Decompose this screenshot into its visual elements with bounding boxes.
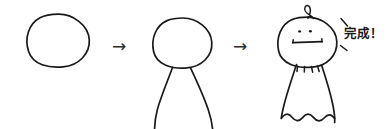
caption-group: 完成！ — [341, 19, 384, 51]
left-eye — [298, 30, 301, 32]
arrow-2-glyph: → — [233, 36, 247, 56]
head-outline-step2 — [153, 18, 212, 68]
mouth — [293, 42, 322, 43]
emphasis-mark-bottom — [341, 46, 348, 51]
left-leg-step2 — [155, 68, 173, 129]
illustration-canvas: → → — [0, 0, 388, 129]
arrow-1: → — [112, 36, 126, 56]
emphasis-mark-top — [341, 19, 348, 27]
step-2-circle-with-legs — [153, 18, 213, 129]
step-1-circle — [27, 14, 89, 67]
arrow-2: → — [233, 36, 247, 56]
caption-label: 完成！ — [344, 26, 383, 41]
step-3-finished-character — [278, 5, 337, 122]
dress-outline — [281, 65, 296, 119]
arrow-1-glyph: → — [112, 36, 126, 56]
dress-outline-right — [322, 65, 335, 123]
drawing-surface: → → — [0, 0, 388, 129]
right-leg-step2 — [191, 68, 213, 129]
wavy-hem — [281, 114, 334, 121]
right-eye — [309, 30, 312, 32]
head-outline-step1 — [27, 14, 89, 67]
